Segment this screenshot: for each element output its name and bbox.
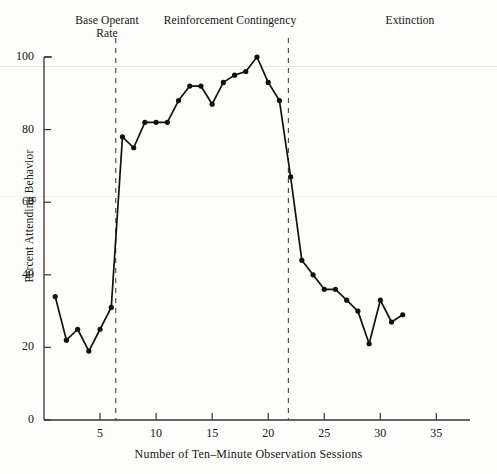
data-point-marker <box>355 309 360 314</box>
x-tick-label: 30 <box>367 426 393 441</box>
data-point-marker <box>97 327 102 332</box>
data-point-marker <box>210 102 215 107</box>
data-point-marker <box>221 80 226 85</box>
data-point-marker <box>277 98 282 103</box>
x-tick-label: 10 <box>143 426 169 441</box>
x-tick-label: 15 <box>199 426 225 441</box>
data-point-marker <box>53 294 58 299</box>
y-tick-label: 100 <box>4 49 34 64</box>
data-point-marker <box>75 327 80 332</box>
x-tick-label: 20 <box>255 426 281 441</box>
data-point-marker <box>288 174 293 179</box>
data-point-marker <box>344 298 349 303</box>
data-point-marker <box>154 120 159 125</box>
data-point-markers <box>53 54 406 353</box>
x-tick-marks <box>100 413 436 420</box>
data-point-marker <box>378 298 383 303</box>
data-point-marker <box>367 341 372 346</box>
data-point-marker <box>243 69 248 74</box>
chart-figure: Base Operant Rate Reinforcement Continge… <box>0 0 497 474</box>
data-point-marker <box>120 134 125 139</box>
data-point-marker <box>187 83 192 88</box>
data-point-marker <box>266 80 271 85</box>
y-axis-title: Percent Attending Behavior <box>23 131 35 301</box>
data-point-marker <box>131 145 136 150</box>
data-point-marker <box>86 348 91 353</box>
data-point-marker <box>389 319 394 324</box>
plot-area <box>0 0 497 474</box>
data-point-marker <box>64 338 69 343</box>
x-tick-label: 5 <box>87 426 113 441</box>
data-point-marker <box>333 287 338 292</box>
data-series-line <box>55 57 403 351</box>
axes <box>44 57 470 420</box>
data-point-marker <box>310 272 315 277</box>
data-point-marker <box>142 120 147 125</box>
data-point-marker <box>254 54 259 59</box>
data-point-marker <box>198 83 203 88</box>
phase-divider-lines <box>116 38 289 420</box>
y-tick-marks <box>44 57 51 420</box>
data-point-marker <box>109 305 114 310</box>
x-tick-label: 25 <box>311 426 337 441</box>
data-point-marker <box>165 120 170 125</box>
data-point-marker <box>232 73 237 78</box>
data-point-marker <box>176 98 181 103</box>
data-point-marker <box>400 312 405 317</box>
x-tick-label: 35 <box>423 426 449 441</box>
x-axis-title: Number of Ten–Minute Observation Session… <box>0 447 497 462</box>
data-point-marker <box>322 287 327 292</box>
y-tick-label: 0 <box>4 412 34 427</box>
data-point-marker <box>299 258 304 263</box>
y-tick-label: 20 <box>4 339 34 354</box>
